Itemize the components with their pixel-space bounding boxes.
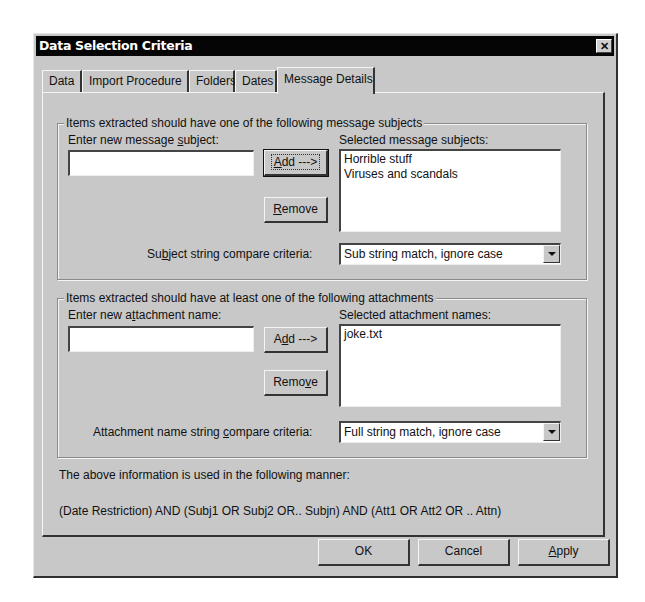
remove-subject-button[interactable]: Remove <box>264 197 328 223</box>
new-subject-label: Enter new message subject: <box>68 133 219 147</box>
close-button[interactable]: ✕ <box>596 39 612 53</box>
subject-criteria-label: Subject string compare criteria: <box>147 247 312 261</box>
tab-import-procedure[interactable]: Import Procedure <box>82 70 189 92</box>
attachment-criteria-value: Full string match, ignore case <box>344 425 501 439</box>
list-item[interactable]: Viruses and scandals <box>344 167 557 182</box>
tab-label: Folders <box>196 74 236 88</box>
info-description: The above information is used in the fol… <box>59 468 350 482</box>
list-item[interactable]: joke.txt <box>344 327 557 342</box>
subject-criteria-select[interactable]: Sub string match, ignore case <box>339 243 561 265</box>
selected-subjects-label: Selected message subjects: <box>339 133 488 147</box>
data-selection-criteria-dialog: Data Selection Criteria ✕ Data Import Pr… <box>33 33 618 578</box>
selected-attachments-list[interactable]: joke.txt <box>339 324 561 407</box>
selected-subjects-list[interactable]: Horrible stuff Viruses and scandals <box>339 149 561 232</box>
title-bar[interactable]: Data Selection Criteria ✕ <box>36 36 614 56</box>
attachments-group-label: Items extracted should have at least one… <box>64 291 436 305</box>
close-icon: ✕ <box>600 40 609 52</box>
subjects-group: Items extracted should have one of the f… <box>57 123 587 280</box>
subjects-group-label: Items extracted should have one of the f… <box>64 116 424 130</box>
tab-label: Data <box>49 74 74 88</box>
dialog-title: Data Selection Criteria <box>39 38 192 53</box>
cancel-button[interactable]: Cancel <box>418 539 510 566</box>
tab-message-details[interactable]: Message Details <box>277 67 375 94</box>
tab-folders[interactable]: Folders <box>189 70 235 92</box>
remove-attachment-button[interactable]: Remove <box>264 370 328 396</box>
ok-button[interactable]: OK <box>318 539 410 566</box>
tab-label: Import Procedure <box>89 74 182 88</box>
message-details-panel: Items extracted should have one of the f… <box>42 92 605 537</box>
tab-label: Dates <box>242 74 273 88</box>
add-attachment-button[interactable]: Add ---> <box>264 327 328 353</box>
attachment-criteria-select[interactable]: Full string match, ignore case <box>339 421 561 443</box>
new-attachment-label: Enter new attachment name: <box>68 308 221 322</box>
chevron-down-icon[interactable] <box>543 245 560 263</box>
attachment-criteria-label: Attachment name string compare criteria: <box>93 425 312 439</box>
selected-attachments-label: Selected attachment names: <box>339 308 491 322</box>
tab-label: Message Details <box>284 72 373 86</box>
tab-dates[interactable]: Dates <box>235 70 277 92</box>
tab-data[interactable]: Data <box>42 70 82 92</box>
chevron-down-icon[interactable] <box>543 423 560 441</box>
add-subject-button[interactable]: Add ---> <box>264 150 328 176</box>
new-subject-input[interactable] <box>68 150 254 176</box>
info-formula: (Date Restriction) AND (Subj1 OR Subj2 O… <box>59 504 501 518</box>
list-item[interactable]: Horrible stuff <box>344 152 557 167</box>
new-attachment-input[interactable] <box>68 326 254 352</box>
apply-button[interactable]: Apply <box>518 539 610 566</box>
subject-criteria-value: Sub string match, ignore case <box>344 247 503 261</box>
attachments-group: Items extracted should have at least one… <box>57 298 587 458</box>
